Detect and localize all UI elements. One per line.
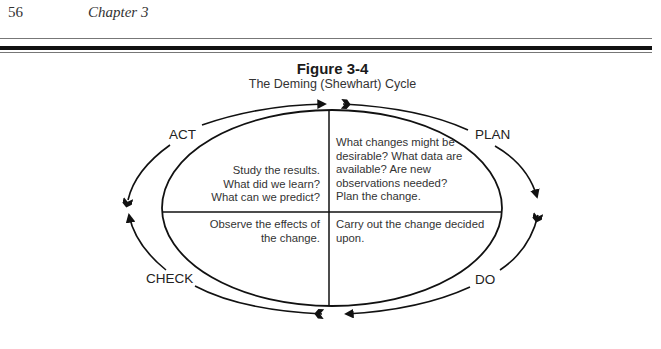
- plan-arrow: [495, 146, 537, 197]
- quadrant-act-text: Study the results. What did we learn? Wh…: [200, 164, 320, 205]
- check-arrow: [129, 215, 166, 270]
- stage-label-check: CHECK: [146, 271, 193, 286]
- stage-label-do: DO: [475, 272, 495, 287]
- deming-cycle-diagram: [0, 0, 661, 349]
- plan-arc: [343, 104, 468, 130]
- quadrant-do-text: Carry out the change decided upon.: [336, 218, 506, 245]
- quadrant-plan-text: What changes might be desirable? What da…: [336, 136, 496, 204]
- do-arrow: [346, 287, 470, 314]
- check-lead-arc: [195, 286, 322, 314]
- quadrant-check-text: Observe the effects of the change.: [180, 218, 320, 245]
- stage-label-act: ACT: [169, 127, 196, 142]
- act-arrow: [202, 104, 325, 125]
